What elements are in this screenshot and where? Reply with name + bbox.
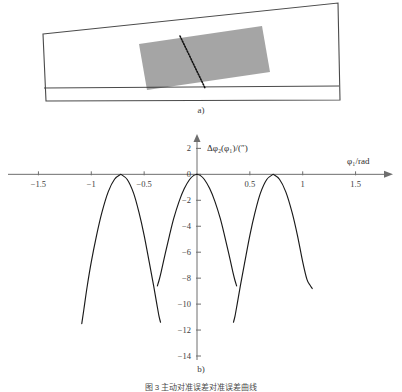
panel-a-schematic <box>0 0 402 108</box>
x-axis-tick-labels: −1.5−1−0.50.511.5 <box>31 179 361 189</box>
y-axis-title: Δφ₂(φ₁)/(″) <box>207 143 248 153</box>
figure-caption: 图 3 主动对准误差对准误差曲线 <box>0 381 402 392</box>
svg-text:0.5: 0.5 <box>245 179 256 189</box>
svg-text:−10: −10 <box>178 299 191 309</box>
svg-text:−0.5: −0.5 <box>136 179 151 189</box>
svg-text:−1.5: −1.5 <box>31 179 46 189</box>
svg-text:−2: −2 <box>182 195 191 205</box>
curve-branch-left-inner <box>121 174 161 322</box>
x-axis-arrowhead <box>384 171 393 178</box>
x-axis-title: φ₁/rad <box>347 156 370 166</box>
curve-branch-center-left <box>157 174 197 286</box>
svg-text:2: 2 <box>187 143 191 153</box>
panel-a-label: a) <box>0 105 402 115</box>
x-axis: −1.5−1−0.50.511.5 <box>8 171 393 190</box>
svg-text:1.5: 1.5 <box>350 179 361 189</box>
panel-b-label: b) <box>0 364 402 374</box>
curve-branch-right-outer <box>273 174 312 288</box>
svg-text:−12: −12 <box>178 325 191 335</box>
svg-text:−1: −1 <box>87 179 96 189</box>
curve-branch-right-inner <box>233 174 273 322</box>
svg-text:1: 1 <box>301 179 305 189</box>
y-axis-arrowhead <box>194 134 201 142</box>
curve-branch-left-outer <box>82 174 121 323</box>
svg-text:−8: −8 <box>182 273 191 283</box>
figure-container: a) −1.5−1−0.50.511.5 20−2−4−6−8−10−12−14… <box>0 0 402 392</box>
svg-text:−6: −6 <box>182 247 191 257</box>
y-axis-tick-labels: 20−2−4−6−8−10−12−14 <box>178 143 192 361</box>
svg-text:−14: −14 <box>178 351 192 361</box>
svg-text:−4: −4 <box>182 221 192 231</box>
panel-b-chart: −1.5−1−0.50.511.5 20−2−4−6−8−10−12−14 Δφ… <box>0 128 402 368</box>
y-axis: 20−2−4−6−8−10−12−14 <box>178 134 201 361</box>
curve-branch-center-right <box>197 174 237 286</box>
